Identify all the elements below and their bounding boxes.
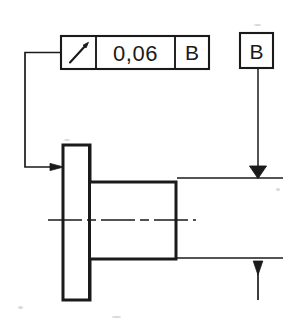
datum-letter: B xyxy=(249,40,263,63)
flange-rectangle xyxy=(63,145,90,300)
filled-datum-triangle-icon xyxy=(250,166,267,179)
dimension-arrow-down xyxy=(253,261,263,300)
feature-control-frame[interactable]: 0,06 B xyxy=(61,36,209,69)
leader-arrowhead-icon xyxy=(50,163,64,170)
drawing-svg: 0,06 B B xyxy=(0,0,288,323)
engineering-drawing-canvas: 0,06 B B xyxy=(0,0,288,323)
tolerance-value: 0,06 xyxy=(113,41,158,66)
datum-reference-letter: B xyxy=(185,41,199,64)
fcf-leader-line xyxy=(25,53,64,171)
leader-polyline xyxy=(25,53,61,168)
datum-feature-symbol[interactable]: B xyxy=(240,33,273,179)
